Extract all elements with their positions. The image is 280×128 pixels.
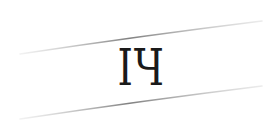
captcha-image: I Ч — [0, 0, 280, 128]
captcha-char-2: Ч — [134, 40, 165, 96]
captcha-text: I Ч — [125, 40, 156, 96]
captcha-char-1: I — [117, 40, 133, 96]
